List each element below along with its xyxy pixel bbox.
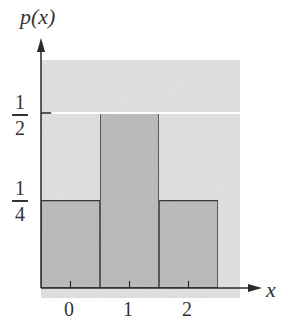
x-axis-arrow-icon — [248, 284, 262, 292]
bar-2 — [159, 201, 218, 289]
ytick-half-numerator: 1 — [12, 92, 28, 112]
xtick-label-0: 0 — [59, 298, 79, 321]
ytick-quarter-denominator: 4 — [12, 204, 28, 224]
bar-1 — [100, 113, 159, 288]
bar-0 — [41, 201, 100, 289]
ytick-label-half: 1 2 — [12, 92, 28, 138]
y-axis-arrow-icon — [37, 38, 45, 52]
ytick-label-quarter: 1 4 — [12, 178, 28, 224]
ytick-quarter-numerator: 1 — [12, 178, 28, 198]
y-axis-label: p(x) — [20, 4, 55, 30]
ytick-half-denominator: 2 — [12, 118, 28, 138]
fraction-bar — [12, 114, 28, 116]
fraction-bar — [12, 200, 28, 202]
xtick-label-2: 2 — [177, 298, 197, 321]
probability-histogram — [0, 0, 296, 331]
xtick-label-1: 1 — [118, 298, 138, 321]
x-axis-label: x — [266, 277, 276, 303]
